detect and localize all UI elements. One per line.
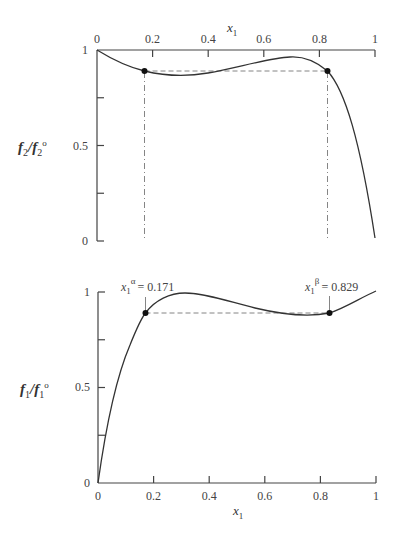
f1-curve xyxy=(98,291,376,483)
bottom-plot: 0 0.2 0.4 0.6 0.8 1 1 0.5 0 x1 x1α= 0.17… xyxy=(75,276,379,521)
top-ytick-1: 1 xyxy=(82,43,88,57)
bottom-alpha-point xyxy=(143,310,149,316)
bottom-xtick-0.6: 0.6 xyxy=(257,489,272,503)
bottom-xtick-0.8: 0.8 xyxy=(313,489,328,503)
bottom-ytick-0: 0 xyxy=(84,476,90,490)
bottom-x-ticks xyxy=(154,476,376,483)
bottom-beta-point xyxy=(327,310,333,316)
bottom-ylabel: f1/f1o xyxy=(20,380,49,400)
top-plot: 0 0.2 0.4 0.6 0.8 1 1 0.5 0 x1 xyxy=(73,20,378,248)
bottom-xtick-1: 1 xyxy=(373,489,379,503)
top-y-ticks xyxy=(97,98,104,194)
bottom-xtick-0.4: 0.4 xyxy=(202,489,217,503)
top-xtick-0.8: 0.8 xyxy=(312,32,327,46)
top-ytick-0: 0 xyxy=(82,234,88,248)
beta-annotation: x1β= 0.829 xyxy=(304,276,358,296)
bottom-ytick-1: 1 xyxy=(84,285,90,299)
top-beta-point xyxy=(325,68,331,74)
f2-curve xyxy=(97,50,375,238)
top-xtick-0: 0 xyxy=(94,32,100,46)
top-x-ticks xyxy=(153,50,375,57)
chart-canvas: 0 0.2 0.4 0.6 0.8 1 1 0.5 0 x1 xyxy=(0,0,398,540)
top-ylabel: f2/f2o xyxy=(18,138,47,158)
alpha-annotation: x1α= 0.171 xyxy=(120,276,174,296)
bottom-ytick-0.5: 0.5 xyxy=(75,380,90,394)
bottom-xtick-0: 0 xyxy=(95,489,101,503)
top-xtick-0.6: 0.6 xyxy=(256,32,271,46)
bottom-xlabel: x1 xyxy=(232,503,243,521)
top-xtick-0.4: 0.4 xyxy=(201,32,216,46)
bottom-y-ticks xyxy=(98,340,105,436)
bottom-xtick-0.2: 0.2 xyxy=(146,489,161,503)
top-xtick-0.2: 0.2 xyxy=(145,32,160,46)
top-xlabel: x1 xyxy=(226,20,237,38)
top-alpha-point xyxy=(142,68,148,74)
top-ytick-0.5: 0.5 xyxy=(73,139,88,153)
top-xtick-1: 1 xyxy=(372,32,378,46)
